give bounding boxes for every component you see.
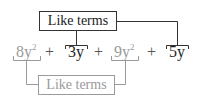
like-terms-bottom-label: Like terms xyxy=(46,78,106,92)
connector-8y2-to-bottom xyxy=(27,61,39,85)
term-3y: 3y xyxy=(68,44,84,60)
like-terms-top-label: Like terms xyxy=(48,14,108,28)
term-9y-squared-base: 9y xyxy=(114,43,130,60)
like-terms-bottom-box: Like terms xyxy=(38,75,115,95)
term-8y-squared-exponent: 2 xyxy=(32,42,37,52)
plus-sign-1: + xyxy=(45,44,54,60)
term-3y-base: 3y xyxy=(68,43,84,60)
term-8y-squared-base: 8y xyxy=(16,43,32,60)
term-5y: 5y xyxy=(169,44,185,60)
like-terms-diagram: Like terms 8y2 + 3y + 9y2 + 5y Like term… xyxy=(0,0,197,100)
connector-9y2-to-bottom xyxy=(115,61,126,85)
plus-sign-2: + xyxy=(94,44,103,60)
term-9y-squared-exponent: 2 xyxy=(130,42,135,52)
term-8y-squared: 8y2 xyxy=(16,44,37,60)
term-5y-base: 5y xyxy=(169,43,185,60)
connector-top-to-5y xyxy=(117,22,178,46)
like-terms-top-box: Like terms xyxy=(39,11,117,31)
term-9y-squared: 9y2 xyxy=(114,44,135,60)
plus-sign-3: + xyxy=(147,44,156,60)
